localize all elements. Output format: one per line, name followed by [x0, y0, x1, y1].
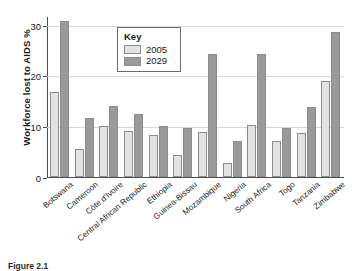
- bar-2005: [321, 81, 330, 178]
- bar-2005: [124, 131, 133, 177]
- y-tick-label: 30: [30, 20, 41, 31]
- y-tick-mark: [43, 26, 47, 27]
- bar-2029: [159, 126, 168, 177]
- bar-2005: [223, 163, 232, 177]
- bar-2005: [173, 155, 182, 177]
- legend-label: 2005: [146, 45, 167, 55]
- figure-caption: Figure 2.1: [8, 261, 48, 271]
- x-axis-labels: BotswanaCameroonCôte d'IvoireCentral Afr…: [47, 180, 344, 250]
- y-tick-mark: [43, 127, 47, 128]
- legend: Key 20052029: [117, 27, 181, 72]
- bar-2005: [297, 133, 306, 177]
- bar-2029: [208, 54, 217, 177]
- legend-entry: 2029: [124, 56, 175, 66]
- legend-swatch-icon: [124, 45, 141, 54]
- bar-2005: [75, 149, 84, 177]
- legend-swatch-icon: [124, 57, 141, 66]
- plot-area: 0102030: [47, 17, 344, 178]
- legend-entries: 20052029: [124, 45, 175, 66]
- bar-2005: [50, 92, 59, 177]
- bar-2005: [149, 135, 158, 177]
- legend-entry: 2005: [124, 45, 175, 55]
- bar-2005: [272, 141, 281, 177]
- bar-2029: [85, 118, 94, 177]
- legend-label: 2029: [146, 56, 167, 66]
- bar-group: [295, 17, 320, 177]
- legend-title: Key: [124, 32, 175, 42]
- x-axis-label: Togo: [278, 180, 297, 198]
- x-axis-line: [47, 177, 344, 178]
- bar-2005: [198, 132, 207, 177]
- bar-2029: [307, 107, 316, 177]
- y-tick-label: 0: [36, 173, 41, 184]
- bar-2029: [60, 21, 69, 177]
- y-tick-label: 20: [30, 71, 41, 82]
- y-tick-mark: [43, 178, 47, 179]
- bar-group: [221, 17, 246, 177]
- bar-group: [73, 17, 98, 177]
- bar-2029: [134, 114, 143, 177]
- bar-2029: [257, 54, 266, 177]
- bar-2005: [99, 126, 108, 177]
- bar-group: [196, 17, 221, 177]
- bar-2005: [247, 125, 256, 177]
- bar-group: [270, 17, 295, 177]
- bar-group: [245, 17, 270, 177]
- bar-group: [319, 17, 344, 177]
- y-tick-mark: [43, 76, 47, 77]
- bars-layer: [48, 17, 344, 177]
- bar-2029: [109, 106, 118, 177]
- bar-2029: [331, 32, 340, 177]
- bar-2029: [282, 128, 291, 177]
- y-tick-label: 10: [30, 122, 41, 133]
- bar-2029: [233, 141, 242, 177]
- bar-group: [48, 17, 73, 177]
- bar-2029: [183, 128, 192, 177]
